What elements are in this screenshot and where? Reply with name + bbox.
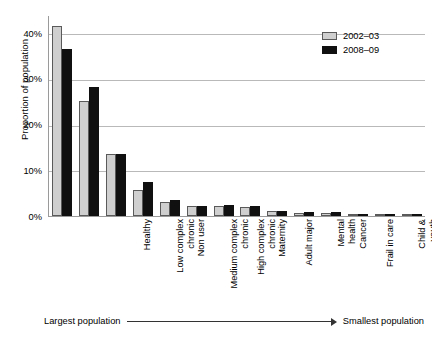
bar xyxy=(294,213,304,216)
bar xyxy=(224,205,234,216)
x-tick-label: Non user xyxy=(196,219,207,299)
x-tick-label: Adult major xyxy=(304,219,315,299)
bar xyxy=(79,101,89,216)
legend: 2002–032008–09 xyxy=(322,30,379,58)
bar xyxy=(358,214,368,216)
bar-group xyxy=(398,16,425,216)
bar xyxy=(52,26,62,216)
legend-item: 2002–03 xyxy=(322,30,379,42)
bar xyxy=(187,206,197,217)
bar xyxy=(304,212,314,216)
bar xyxy=(214,206,224,217)
bar xyxy=(106,154,116,216)
bar-group xyxy=(103,16,130,216)
bar xyxy=(385,214,395,216)
bar xyxy=(89,87,99,216)
x-tick-label: Healthy xyxy=(142,219,153,299)
bar xyxy=(62,49,72,216)
bar-group xyxy=(210,16,237,216)
y-axis-tick-labels: 0%10%20%30%40% xyxy=(0,16,44,217)
legend-label: 2008–09 xyxy=(343,46,379,55)
x-tick-label: Mental health xyxy=(336,219,357,299)
y-tick-label: 10% xyxy=(23,167,42,176)
y-tick-label: 20% xyxy=(23,121,42,130)
legend-item: 2008–09 xyxy=(322,44,379,56)
bar-group xyxy=(264,16,291,216)
bar xyxy=(240,207,250,216)
bar xyxy=(348,214,358,216)
y-tick-label: 0% xyxy=(29,213,42,222)
x-axis-tick-labels: HealthyLow complex chronicNon userMedium… xyxy=(49,219,426,299)
bar xyxy=(267,211,277,216)
bar xyxy=(250,206,260,217)
bar xyxy=(331,212,341,216)
annotation-arrow-icon xyxy=(127,316,337,326)
x-tick-label: Cancer xyxy=(358,219,369,299)
bar-group xyxy=(76,16,103,216)
bar-group xyxy=(291,16,318,216)
bar-group xyxy=(49,16,76,216)
x-tick-label: Medium complex chronic xyxy=(229,219,250,299)
legend-swatch xyxy=(322,46,337,54)
bar xyxy=(197,206,207,217)
y-tick-label: 40% xyxy=(23,30,42,39)
bar xyxy=(116,154,126,216)
bar xyxy=(321,213,331,216)
x-axis-line xyxy=(48,216,425,217)
bar xyxy=(133,190,143,216)
x-tick-label: Low complex chronic xyxy=(175,219,196,299)
legend-label: 2002–03 xyxy=(343,32,379,41)
x-tick-label: Child & youth xyxy=(417,219,432,299)
bar xyxy=(375,214,385,216)
bar xyxy=(402,214,412,216)
annotation-right-label: Smallest population xyxy=(343,316,424,326)
bar xyxy=(412,214,422,216)
bar-chart: Proportion of population 0%10%20%30%40% … xyxy=(0,0,432,339)
x-tick-label: High complex chronic xyxy=(256,219,277,299)
bar xyxy=(170,200,180,216)
bar-group xyxy=(237,16,264,216)
legend-swatch xyxy=(322,32,337,40)
annotation-left-label: Largest population xyxy=(44,316,121,326)
bar xyxy=(160,202,170,216)
population-range-annotation: Largest population Smallest population xyxy=(44,313,424,329)
bar-group xyxy=(130,16,157,216)
x-tick-label: Frail in care xyxy=(385,219,396,299)
x-tick-label: Maternity xyxy=(277,219,288,299)
bar xyxy=(143,182,153,216)
bar-group xyxy=(183,16,210,216)
bar-group xyxy=(156,16,183,216)
bar xyxy=(277,211,287,216)
y-tick-label: 30% xyxy=(23,75,42,84)
